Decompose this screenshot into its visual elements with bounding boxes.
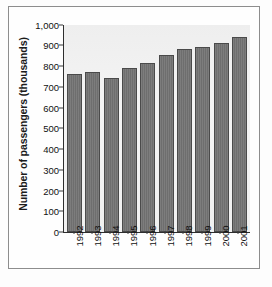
bar-column [232, 25, 247, 233]
bar-1998 [177, 49, 192, 232]
bar-1993 [85, 72, 100, 232]
y-axis-tick-mark [59, 107, 63, 108]
y-axis-title: Number of passengers (thousands) [17, 29, 29, 219]
y-axis-tick-mark [59, 24, 63, 25]
bar-chart-figure: Number of passengers (thousands) 1,00090… [0, 0, 272, 287]
y-axis-tick-label: 900 [30, 40, 59, 51]
x-axis-tick-cell: 1999 [194, 234, 209, 274]
x-axis-tick-label: 1999 [202, 225, 213, 246]
bar-column [104, 25, 119, 233]
x-axis-tick-label: 1995 [128, 225, 139, 246]
x-axis-tick-label: 2000 [220, 225, 231, 246]
y-axis-tick-label: 1,000 [30, 19, 59, 30]
x-axis-tick-cell: 2000 [213, 234, 228, 274]
x-axis-tick-label: 1992 [74, 225, 85, 246]
x-axis-tick-label: 1998 [183, 225, 194, 246]
x-axis-tick-cell: 1996 [139, 234, 154, 274]
y-axis-tick-label: 300 [30, 164, 59, 175]
x-axis-tick-cell: 1993 [84, 234, 99, 274]
bar-2001 [232, 37, 247, 232]
y-axis-tick-label: 200 [30, 185, 59, 196]
x-axis-tick-cell: 1998 [176, 234, 191, 274]
y-axis-tick-label: 100 [30, 206, 59, 217]
bar-1999 [195, 47, 210, 232]
x-axis-tick-cell: 1995 [121, 234, 136, 274]
bar-column [85, 25, 100, 233]
y-axis-tick-label: 0 [30, 227, 59, 238]
x-axis-tick-label: 1996 [147, 225, 158, 246]
x-axis-tick-cell: 1992 [66, 234, 81, 274]
bar-column [195, 25, 210, 233]
x-axis-tick-label: 1994 [110, 225, 121, 246]
bar-column [140, 25, 155, 233]
bar-1992 [67, 74, 82, 232]
x-axis-tick-label: 2001 [238, 225, 249, 246]
bar-1995 [122, 68, 137, 232]
bar-2000 [214, 43, 229, 232]
bar-column [159, 25, 174, 233]
y-axis-tick-mark [59, 149, 63, 150]
y-axis-tick-mark [59, 66, 63, 67]
y-axis-tick-mark [59, 190, 63, 191]
y-axis-tick-mark [59, 211, 63, 212]
bar-1994 [104, 78, 119, 232]
y-axis-tick-label: 500 [30, 123, 59, 134]
bar-column [122, 25, 137, 233]
x-axis-tick-cell: 2001 [231, 234, 246, 274]
plot-area [63, 25, 250, 234]
x-axis-tick-labels: 1992199319941995199619971998199920002001 [63, 234, 249, 274]
y-axis-tick-mark [59, 169, 63, 170]
bar-column [214, 25, 229, 233]
bar-column [67, 25, 82, 233]
bar-series [64, 25, 250, 233]
bar-1997 [159, 55, 174, 232]
x-axis-tick-cell: 1997 [158, 234, 173, 274]
x-axis-tick-cell: 1994 [103, 234, 118, 274]
y-axis-tick-mark [59, 45, 63, 46]
y-axis-tick-mark [59, 128, 63, 129]
x-axis-tick-label: 1997 [165, 225, 176, 246]
y-axis-tick-label: 700 [30, 81, 59, 92]
bar-column [177, 25, 192, 233]
y-axis-tick-label: 600 [30, 102, 59, 113]
bar-1996 [140, 63, 155, 232]
y-axis-tick-labels: 1,0009008007006005004003002001000 [30, 15, 59, 235]
y-axis-tick-mark [59, 232, 63, 233]
y-axis-tick-mark [59, 86, 63, 87]
x-axis-tick-label: 1993 [92, 225, 103, 246]
y-axis-tick-label: 400 [30, 144, 59, 155]
y-axis-tick-label: 800 [30, 61, 59, 72]
